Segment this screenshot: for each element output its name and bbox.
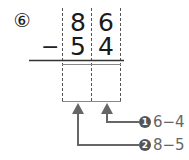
answer-box-tens[interactable] [63, 65, 91, 101]
problem-number: ⑥ [12, 10, 32, 30]
step-1-badge-icon: 1 [139, 116, 151, 128]
hint-step-2: 28−5 [139, 137, 185, 153]
step-2-badge-icon: 2 [139, 139, 151, 151]
subtrahend-ones-digit: 4 [96, 34, 116, 60]
hint-step-1-text: 6−4 [153, 113, 185, 131]
hint-step-2-text: 8−5 [153, 136, 185, 154]
answer-box-ones[interactable] [92, 65, 120, 101]
subtrahend-tens-digit: 5 [68, 34, 88, 60]
hint-step-1: 16−4 [139, 114, 185, 130]
arrow-ones-icon [101, 103, 139, 122]
minus-sign: − [41, 36, 57, 58]
